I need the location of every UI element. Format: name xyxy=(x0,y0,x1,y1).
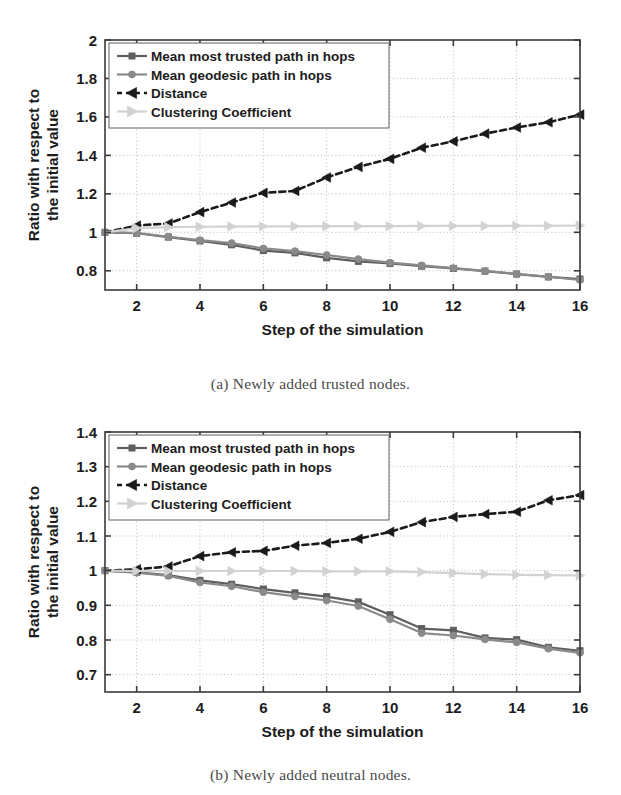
legend: Mean most trusted path in hopsMean geode… xyxy=(109,43,389,128)
x-tick-label: 16 xyxy=(572,297,589,314)
circle-marker xyxy=(260,245,267,252)
circle-marker xyxy=(513,639,520,646)
x-tick-label: 8 xyxy=(322,297,330,314)
y-tick-label: 1.2 xyxy=(76,185,97,202)
x-tick-label: 8 xyxy=(322,699,330,716)
circle-marker xyxy=(355,603,362,610)
x-tick-label: 2 xyxy=(132,699,140,716)
y-tick-label: 1.3 xyxy=(76,458,97,475)
circle-marker xyxy=(197,579,204,586)
circle-marker xyxy=(292,248,299,255)
circle-marker xyxy=(355,256,362,263)
x-tick-label: 12 xyxy=(445,297,462,314)
caption-a: (a) Newly added trusted nodes. xyxy=(0,375,621,393)
y-axis-label-line1: Ratio with respect to xyxy=(25,89,42,241)
y-tick-label: 0.8 xyxy=(76,262,97,279)
x-axis-label: Step of the simulation xyxy=(262,723,424,740)
x-tick-label: 14 xyxy=(508,699,525,716)
x-tick-label: 10 xyxy=(382,699,399,716)
x-tick-label: 10 xyxy=(382,297,399,314)
circle-marker xyxy=(292,593,299,600)
circle-marker xyxy=(129,463,136,470)
y-tick-label: 1.2 xyxy=(76,493,97,510)
y-tick-label: 0.8 xyxy=(76,632,97,649)
legend-label-2: Mean geodesic path in hops xyxy=(151,68,332,83)
x-tick-label: 12 xyxy=(445,699,462,716)
circle-marker xyxy=(323,252,330,259)
y-tick-label: 1 xyxy=(89,224,97,241)
y-axis-label-line1: Ratio with respect to xyxy=(25,486,42,638)
x-tick-label: 4 xyxy=(196,699,205,716)
circle-marker xyxy=(387,259,394,266)
circle-marker xyxy=(450,265,457,272)
y-tick-label: 2 xyxy=(89,32,97,49)
legend-label-4: Clustering Coefficient xyxy=(151,105,292,120)
chart-b-svg: 0.70.80.911.11.21.31.4246810121416Step o… xyxy=(0,398,621,795)
legend-label-3: Distance xyxy=(151,86,208,101)
circle-marker xyxy=(418,630,425,637)
legend-label-1: Mean most trusted path in hops xyxy=(151,441,355,456)
circle-marker xyxy=(165,233,172,240)
legend: Mean most trusted path in hopsMean geode… xyxy=(109,435,389,520)
circle-marker xyxy=(228,240,235,247)
circle-marker xyxy=(513,270,520,277)
circle-marker xyxy=(482,268,489,275)
circle-marker xyxy=(545,273,552,280)
square-marker xyxy=(129,445,135,451)
y-axis-label-line2: the initial value xyxy=(44,109,61,221)
caption-b: (b) Newly added neutral nodes. xyxy=(0,766,621,784)
legend-label-4: Clustering Coefficient xyxy=(151,497,292,512)
y-tick-label: 1.4 xyxy=(76,424,98,441)
y-tick-label: 0.9 xyxy=(76,597,97,614)
circle-marker xyxy=(545,645,552,652)
circle-marker xyxy=(197,237,204,244)
circle-marker xyxy=(418,262,425,269)
circle-marker xyxy=(450,632,457,639)
legend-label-2: Mean geodesic path in hops xyxy=(151,460,332,475)
x-tick-label: 6 xyxy=(259,297,267,314)
y-tick-label: 1.6 xyxy=(76,108,97,125)
square-marker xyxy=(129,53,135,59)
circle-marker xyxy=(482,636,489,643)
circle-marker xyxy=(323,597,330,604)
y-tick-label: 1.8 xyxy=(76,70,97,87)
y-tick-label: 1.1 xyxy=(76,528,97,545)
y-tick-label: 0.7 xyxy=(76,666,97,683)
chart-panel-b: 0.70.80.911.11.21.31.4246810121416Step o… xyxy=(0,398,621,795)
x-tick-label: 4 xyxy=(196,297,205,314)
circle-marker xyxy=(387,616,394,623)
y-tick-label: 1 xyxy=(89,562,97,579)
circle-marker xyxy=(260,589,267,596)
chart-a-svg: 0.811.21.41.61.82246810121416Step of the… xyxy=(0,0,621,397)
legend-label-1: Mean most trusted path in hops xyxy=(151,49,355,64)
y-tick-label: 1.4 xyxy=(76,147,98,164)
figure-container: 0.811.21.41.61.82246810121416Step of the… xyxy=(0,0,621,795)
x-tick-label: 6 xyxy=(259,699,267,716)
x-tick-label: 2 xyxy=(132,297,140,314)
circle-marker xyxy=(129,71,136,78)
x-tick-label: 16 xyxy=(572,699,589,716)
circle-marker xyxy=(228,583,235,590)
x-tick-label: 14 xyxy=(508,297,525,314)
x-axis-label: Step of the simulation xyxy=(262,321,424,338)
chart-root: 0.811.21.41.61.82246810121416Step of the… xyxy=(0,0,621,397)
chart-root: 0.70.80.911.11.21.31.4246810121416Step o… xyxy=(0,398,621,795)
y-axis-label-line2: the initial value xyxy=(44,506,61,618)
chart-panel-a: 0.811.21.41.61.82246810121416Step of the… xyxy=(0,0,621,397)
legend-label-3: Distance xyxy=(151,478,208,493)
